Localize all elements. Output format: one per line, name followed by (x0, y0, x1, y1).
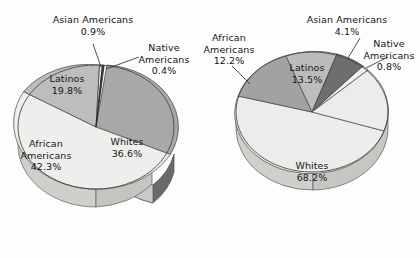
right-label-native: Native Americans 0.8% (358, 38, 420, 73)
right-label-latinos: Latinos 13.5% (278, 62, 336, 85)
right-label-asian: Asian Americans 4.1% (297, 14, 397, 37)
right-pie-chart: Whites 68.2% Latinos 13.5% African Ameri… (0, 0, 420, 258)
right-label-african: African Americans 12.2% (194, 32, 264, 67)
figure-canvas: Whites 36.6% African Americans 42.3% Lat… (0, 0, 420, 258)
right-label-whites: Whites 68.2% (282, 160, 342, 183)
right-african-leader-line (232, 66, 250, 84)
